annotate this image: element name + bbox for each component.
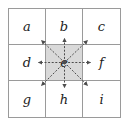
grid-cell-b: b bbox=[46, 9, 83, 45]
cell-label-f: f bbox=[99, 56, 104, 69]
grid-cell-c: c bbox=[83, 9, 120, 45]
cell-label-a: a bbox=[23, 20, 31, 33]
cell-label-g: g bbox=[23, 93, 31, 106]
grid-cell-e-center: e bbox=[46, 45, 83, 81]
grid-cell-i: i bbox=[83, 81, 120, 117]
grid-cell-g: g bbox=[9, 81, 46, 117]
grid-cell-f: f bbox=[83, 45, 120, 81]
cell-label-c: c bbox=[98, 20, 105, 33]
cell-label-d: d bbox=[23, 56, 31, 69]
neighborhood-grid-diagram: a b c d e f g h i bbox=[0, 0, 131, 125]
grid-cell-h: h bbox=[46, 81, 83, 117]
grid-3x3: a b c d e f g h i bbox=[8, 8, 121, 118]
cell-label-h: h bbox=[60, 93, 68, 106]
grid-cell-a: a bbox=[9, 9, 46, 45]
cell-label-b: b bbox=[60, 20, 68, 33]
cell-label-e: e bbox=[60, 56, 68, 69]
cell-label-i: i bbox=[99, 93, 103, 106]
grid-cell-d: d bbox=[9, 45, 46, 81]
